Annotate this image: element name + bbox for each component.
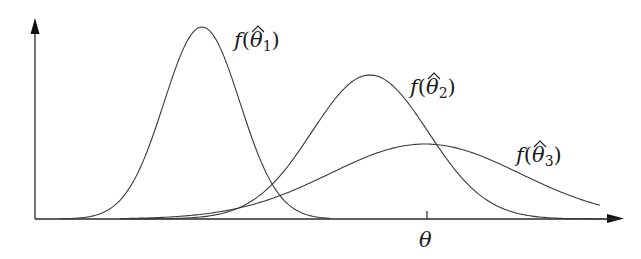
f-symbol: f [234, 28, 242, 52]
y-axis-arrow-icon [31, 18, 40, 34]
rparen: ) [272, 28, 280, 52]
estimator-distributions-diagram: f(θ1) f(θ2) f(θ3) θ [0, 0, 641, 259]
theta-hat: θ [532, 143, 545, 167]
curve-theta1 [60, 27, 330, 219]
theta-symbol: θ [250, 28, 263, 52]
subscript-1: 1 [263, 38, 272, 54]
theta-hat: θ [426, 75, 439, 99]
theta-symbol: θ [532, 143, 545, 167]
f-symbol: f [516, 143, 524, 167]
label-f-theta1: f(θ1) [234, 28, 280, 54]
lparen: ( [524, 143, 532, 167]
label-f-theta2: f(θ2) [410, 75, 456, 101]
theta-symbol: θ [426, 75, 439, 99]
subscript-2: 2 [439, 85, 448, 101]
label-f-theta3: f(θ3) [516, 143, 562, 169]
x-tick-label-theta: θ [419, 228, 432, 252]
lparen: ( [418, 75, 426, 99]
rparen: ) [448, 75, 456, 99]
theta-hat: θ [250, 28, 263, 52]
subscript-3: 3 [545, 153, 554, 169]
lparen: ( [242, 28, 250, 52]
rparen: ) [554, 143, 562, 167]
f-symbol: f [410, 75, 418, 99]
diagram-svg [0, 0, 641, 259]
